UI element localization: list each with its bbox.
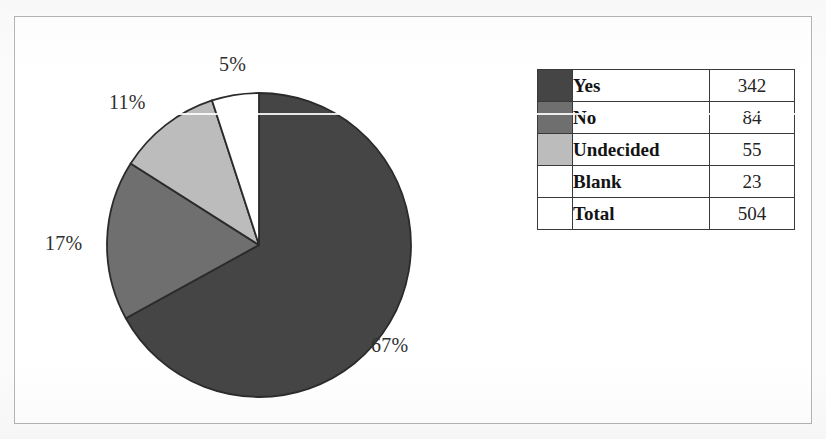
pie-chart bbox=[105, 91, 413, 399]
legend-swatch-yes bbox=[538, 70, 573, 102]
color-swatch-icon bbox=[538, 102, 572, 133]
legend-table: Yes342No84Undecided55Blank23Total504 bbox=[537, 69, 795, 230]
legend-label-no: No bbox=[573, 102, 710, 134]
legend-row: Total504 bbox=[538, 198, 795, 230]
legend-swatch-no bbox=[538, 102, 573, 134]
color-swatch-icon bbox=[538, 166, 572, 197]
legend-value-undecided: 55 bbox=[710, 134, 795, 166]
legend-value-blank: 23 bbox=[710, 166, 795, 198]
pie-chart-svg bbox=[105, 91, 413, 399]
legend-row: No84 bbox=[538, 102, 795, 134]
figure-border-frame: 5% 11% 17% 67% Yes342No84Undecided55Blan… bbox=[14, 16, 812, 424]
legend-row: Blank23 bbox=[538, 166, 795, 198]
legend-label-total: Total bbox=[573, 198, 710, 230]
pie-label-no: 17% bbox=[45, 232, 82, 255]
pie-label-yes: 67% bbox=[371, 334, 408, 357]
legend-value-total: 504 bbox=[710, 198, 795, 230]
legend-row: Undecided55 bbox=[538, 134, 795, 166]
legend-swatch-undecided bbox=[538, 134, 573, 166]
legend-label-blank: Blank bbox=[573, 166, 710, 198]
pie-label-undecided: 11% bbox=[109, 91, 146, 114]
pie-label-blank: 5% bbox=[219, 53, 246, 76]
color-swatch-icon bbox=[538, 70, 572, 101]
legend-swatch-empty bbox=[538, 198, 573, 230]
legend-label-yes: Yes bbox=[573, 70, 710, 102]
legend-value-yes: 342 bbox=[710, 70, 795, 102]
figure-plate: 5% 11% 17% 67% Yes342No84Undecided55Blan… bbox=[0, 0, 826, 439]
color-swatch-icon bbox=[538, 134, 572, 165]
legend-label-undecided: Undecided bbox=[573, 134, 710, 166]
legend-swatch-blank bbox=[538, 166, 573, 198]
legend-row: Yes342 bbox=[538, 70, 795, 102]
legend-value-no: 84 bbox=[710, 102, 795, 134]
